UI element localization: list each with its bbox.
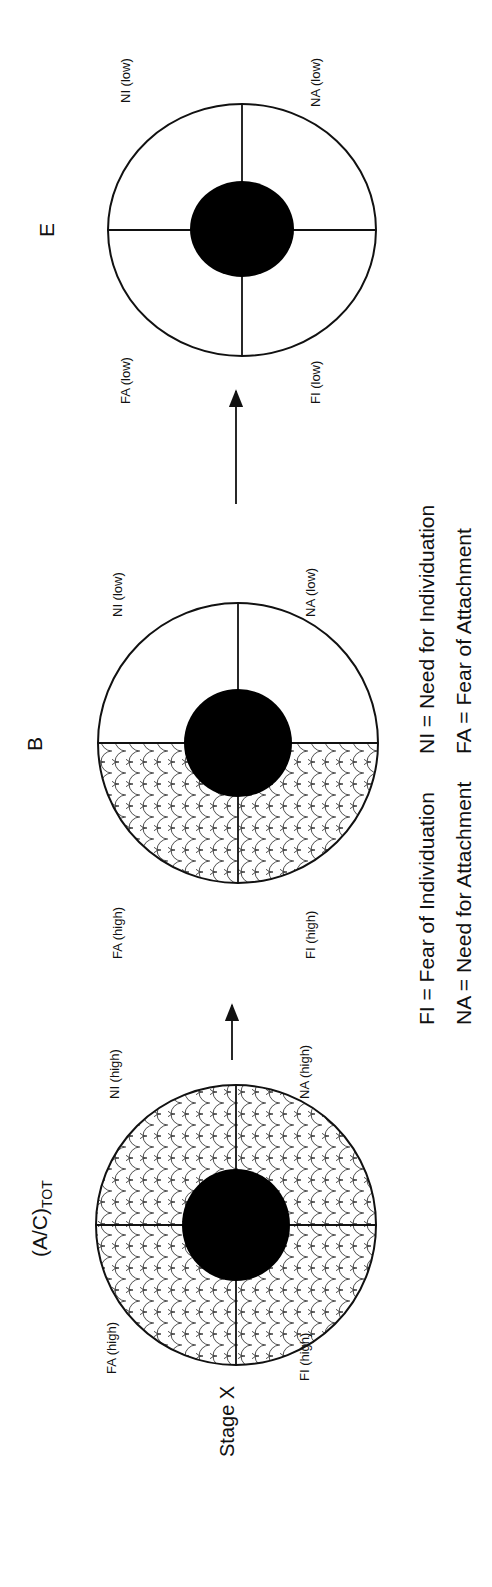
stage-x-label-ni: NI (high) [107,1049,122,1099]
stage-x-label-fa: FA (high) [104,1322,119,1374]
stage-b-label-ni: NI (low) [110,572,125,617]
stage-x-label-fi: FI (high) [297,1333,312,1381]
stage-b-label-na: NA (low) [303,568,318,617]
stage-b-core [184,689,292,797]
legend-fa: FA = Fear of Attachment [452,528,476,754]
stage-x-title: (A/C)TOT [28,1180,55,1257]
legend-ni: NI = Need for Individuation [415,505,439,754]
stage-e-title: E [35,223,59,237]
stage-x-label-na: NA (high) [297,1045,312,1099]
stage-x-core [182,1169,290,1281]
stage-x-circle [96,1085,376,1365]
stage-e-label-na: NA (low) [308,58,323,107]
stage-e-label-fa: FA (low) [118,357,133,404]
legend-na: NA = Need for Attachment [452,782,476,1025]
legend-fi: FI = Fear of Individuation [415,792,439,1025]
stage-e-label-fi: FI (low) [308,361,323,404]
stage-b-circle [98,603,378,883]
stage-e-core [190,181,294,277]
stage-x-side-label: Stage X [216,1386,239,1457]
diagram-canvas: (A/C)TOT FA (high) NI (high) FI (high) N… [0,0,492,1587]
stage-e-label-ni: NI (low) [118,58,133,103]
stage-e-circle [108,104,376,356]
stage-b-label-fi: FI (high) [303,911,318,959]
stage-b-title: B [23,737,47,751]
stage-b-label-fa: FA (high) [110,907,125,959]
